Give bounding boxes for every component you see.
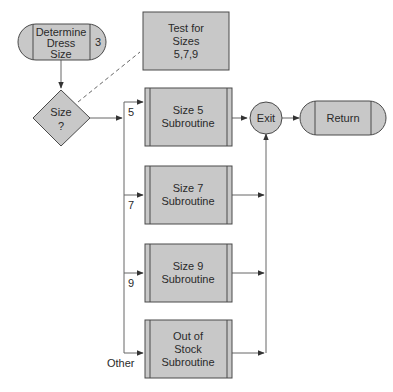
size9-line-2: Subroutine bbox=[161, 273, 214, 285]
other-line-3: Subroutine bbox=[161, 356, 214, 368]
annotation-line-3: 5,7,9 bbox=[174, 48, 198, 60]
size5-line-1: Size 5 bbox=[173, 104, 204, 116]
out-of-stock-subroutine: Out of Stock Subroutine bbox=[145, 320, 232, 378]
branch-label-7: 7 bbox=[128, 199, 134, 211]
annotation-line-2: Sizes bbox=[173, 35, 200, 47]
other-line-1: Out of bbox=[173, 330, 204, 342]
size5-subroutine: Size 5 Subroutine bbox=[145, 88, 232, 146]
decision-diamond: Size ? bbox=[33, 90, 90, 146]
size7-subroutine: Size 7 Subroutine bbox=[145, 166, 232, 224]
return-label: Return bbox=[326, 112, 359, 124]
decision-line-2: ? bbox=[58, 120, 64, 132]
start-terminal: Determine Dress Size 3 bbox=[18, 24, 106, 60]
start-line-3: Size bbox=[50, 48, 71, 60]
branch-label-other: Other bbox=[107, 357, 135, 369]
size7-line-1: Size 7 bbox=[173, 182, 204, 194]
start-page-ref: 3 bbox=[95, 36, 101, 48]
exit-connector: Exit bbox=[250, 102, 282, 134]
size5-line-2: Subroutine bbox=[161, 117, 214, 129]
branch-label-5: 5 bbox=[128, 106, 134, 118]
branch-label-9: 9 bbox=[128, 277, 134, 289]
decision-line-1: Size bbox=[50, 106, 71, 118]
flowchart: Determine Dress Size 3 Test for Sizes 5,… bbox=[0, 0, 393, 392]
annotation-line-1: Test for bbox=[168, 22, 204, 34]
return-terminal: Return bbox=[300, 101, 386, 135]
size9-line-1: Size 9 bbox=[173, 260, 204, 272]
exit-label: Exit bbox=[257, 112, 275, 124]
other-line-2: Stock bbox=[174, 343, 202, 355]
size7-line-2: Subroutine bbox=[161, 195, 214, 207]
size9-subroutine: Size 9 Subroutine bbox=[145, 244, 232, 302]
annotation-box: Test for Sizes 5,7,9 bbox=[143, 12, 229, 70]
